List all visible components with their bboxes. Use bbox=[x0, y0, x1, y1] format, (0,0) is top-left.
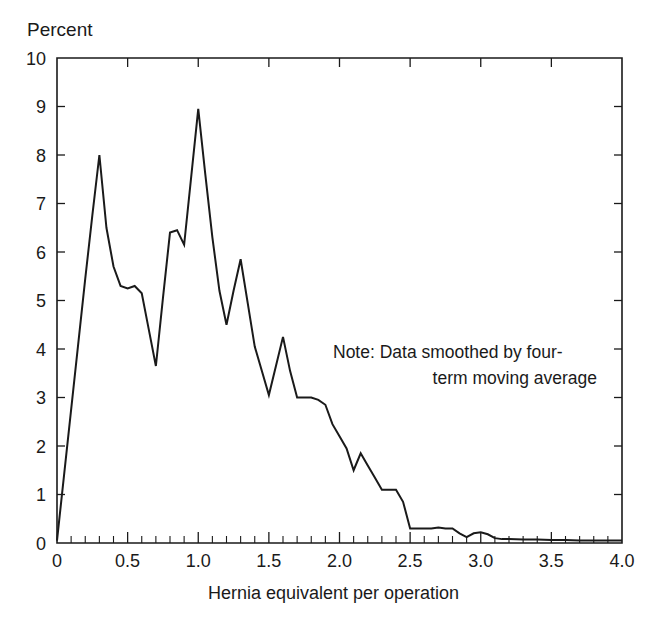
x-tick-label: 0.5 bbox=[115, 551, 140, 571]
chart-note-line-2: term moving average bbox=[333, 365, 601, 391]
x-tick-label: 1.5 bbox=[256, 551, 281, 571]
x-tick-label: 2.5 bbox=[398, 551, 423, 571]
plot-area: 109876543210 00.51.01.52.02.53.03.54.0 bbox=[0, 0, 667, 624]
x-axis-title: Hernia equivalent per operation bbox=[0, 583, 667, 604]
y-tick-label: 1 bbox=[36, 485, 46, 505]
y-tick-label: 8 bbox=[36, 146, 46, 166]
x-axis-tick-labels: 00.51.01.52.02.53.03.54.0 bbox=[52, 551, 635, 571]
y-tick-label: 2 bbox=[36, 437, 46, 457]
y-tick-label: 7 bbox=[36, 194, 46, 214]
y-tick-label: 10 bbox=[26, 49, 46, 69]
data-curve bbox=[57, 109, 622, 541]
x-axis-ticks bbox=[71, 58, 608, 543]
x-tick-label: 2.0 bbox=[327, 551, 352, 571]
x-tick-label: 4.0 bbox=[609, 551, 634, 571]
chart-figure: Percent 109876543210 00.51.01.52.02.53.0… bbox=[0, 0, 667, 624]
chart-note-line-1: Note: Data smoothed by four- bbox=[333, 339, 601, 365]
x-tick-label: 0 bbox=[52, 551, 62, 571]
y-tick-label: 4 bbox=[36, 340, 46, 360]
y-tick-label: 3 bbox=[36, 388, 46, 408]
x-tick-label: 1.0 bbox=[186, 551, 211, 571]
chart-note: Note: Data smoothed by four- term moving… bbox=[333, 339, 601, 391]
y-axis-tick-labels: 109876543210 bbox=[26, 49, 46, 554]
y-tick-label: 6 bbox=[36, 243, 46, 263]
y-tick-label: 0 bbox=[36, 534, 46, 554]
axis-frame bbox=[57, 58, 622, 543]
x-tick-label: 3.0 bbox=[468, 551, 493, 571]
y-tick-label: 5 bbox=[36, 291, 46, 311]
x-tick-label: 3.5 bbox=[539, 551, 564, 571]
y-tick-label: 9 bbox=[36, 97, 46, 117]
